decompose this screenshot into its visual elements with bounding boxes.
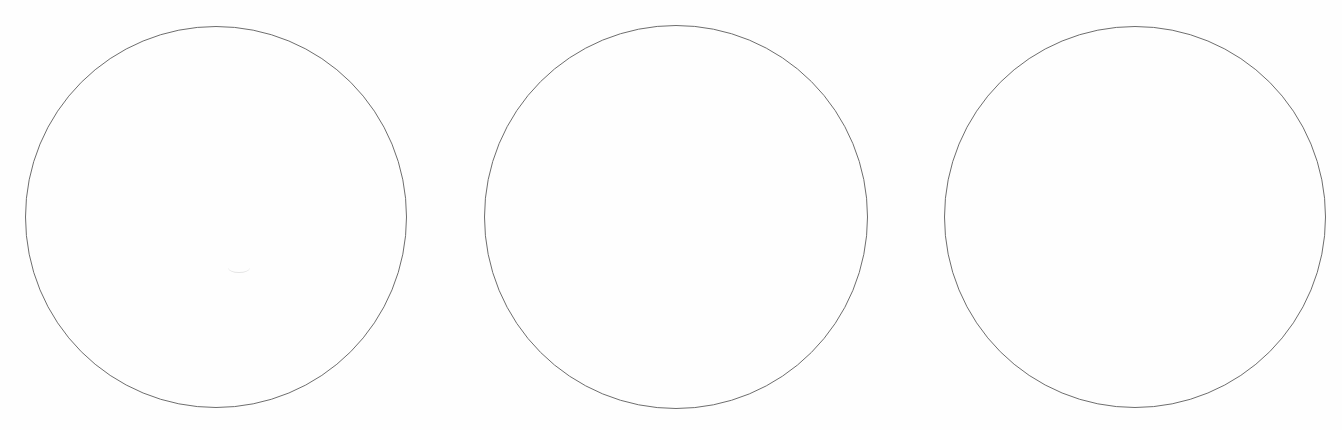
circle-2	[484, 25, 868, 409]
diagram-canvas	[0, 0, 1342, 430]
circle-1	[25, 26, 407, 408]
circle-3	[944, 26, 1326, 408]
scan-smudge	[228, 262, 250, 273]
